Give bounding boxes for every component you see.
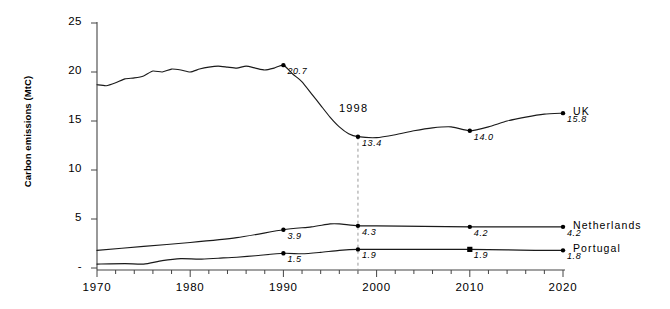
data-point-marker bbox=[561, 111, 565, 115]
data-point-marker bbox=[281, 228, 285, 232]
y-tick-label: 5 bbox=[48, 211, 82, 223]
data-point-value-label: 4.3 bbox=[362, 227, 376, 237]
series-line-uk bbox=[97, 65, 563, 138]
data-point-value-label: 13.4 bbox=[362, 138, 382, 148]
x-tick-label: 1970 bbox=[62, 281, 132, 293]
data-point-marker bbox=[356, 224, 360, 228]
y-tick-label: 20 bbox=[48, 64, 82, 76]
x-tick-label: 2010 bbox=[435, 281, 505, 293]
series-label-uk: UK bbox=[573, 105, 590, 117]
data-point-value-label: 1.9 bbox=[474, 250, 488, 260]
data-point-value-label: 14.0 bbox=[474, 132, 494, 142]
series-label-portugal: Portugal bbox=[573, 242, 621, 254]
data-point-marker bbox=[281, 63, 285, 67]
x-tick-label: 2020 bbox=[528, 281, 598, 293]
chart-canvas bbox=[0, 0, 670, 309]
y-axis-ticks bbox=[91, 23, 97, 268]
data-point-marker bbox=[468, 225, 472, 229]
annotation-year: 1998 bbox=[339, 102, 368, 114]
series-label-netherlands: Netherlands bbox=[573, 219, 642, 231]
data-point-value-label: 20.7 bbox=[287, 66, 307, 76]
data-point-value-label: 3.9 bbox=[287, 231, 301, 241]
series-lines bbox=[97, 65, 563, 264]
data-point-marker bbox=[468, 129, 472, 133]
data-point-value-label: 1.5 bbox=[287, 254, 301, 264]
y-tick-label: 10 bbox=[48, 162, 82, 174]
y-tick-label: - bbox=[48, 260, 82, 272]
data-point-marker bbox=[356, 247, 360, 251]
data-point-marker bbox=[561, 248, 565, 252]
x-tick-label: 1990 bbox=[248, 281, 318, 293]
data-point-value-label: 4.2 bbox=[474, 228, 488, 238]
line-chart: Carbon emissions (MtC) -510152025 197019… bbox=[0, 0, 670, 309]
data-point-marker bbox=[467, 247, 472, 252]
axes bbox=[91, 22, 565, 277]
data-point-marker bbox=[356, 134, 360, 138]
series-line-netherlands bbox=[97, 224, 563, 251]
x-axis-ticks bbox=[97, 270, 563, 277]
x-tick-label: 1980 bbox=[155, 281, 225, 293]
y-tick-label: 25 bbox=[48, 15, 82, 27]
data-point-marker bbox=[561, 225, 565, 229]
data-point-marker bbox=[281, 251, 285, 255]
series-line-portugal bbox=[97, 249, 563, 264]
data-point-value-label: 1.9 bbox=[362, 250, 376, 260]
y-tick-label: 15 bbox=[48, 113, 82, 125]
x-tick-label: 2000 bbox=[342, 281, 412, 293]
